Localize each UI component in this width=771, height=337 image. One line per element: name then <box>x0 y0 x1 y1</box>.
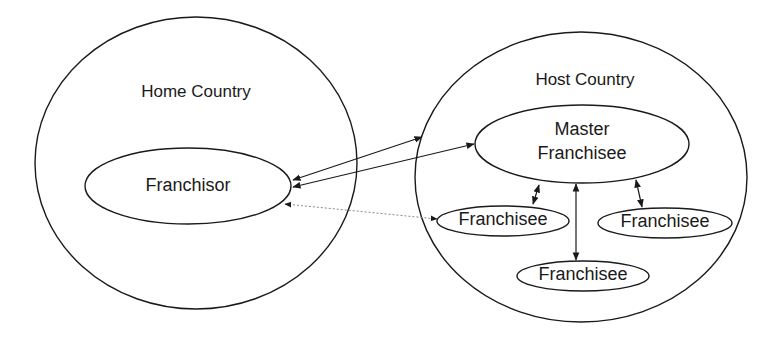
home-country-label: Home Country <box>126 83 266 101</box>
franchisee-left-label: Franchisee <box>443 210 563 229</box>
arrow-master-franchisee-right <box>636 180 642 207</box>
franchisee-bottom-label: Franchisee <box>523 265 643 284</box>
master-franchisee-label-line2: Franchisee <box>522 144 642 163</box>
diagram-canvas <box>0 0 771 337</box>
arrow-franchisor-host-country <box>293 137 422 180</box>
franchisor-label: Franchisor <box>128 176 248 195</box>
dotted-arrow-franchisor-franchisee <box>285 204 437 219</box>
master-franchisee-label-line1: Master <box>522 120 642 139</box>
franchisee-right-label: Franchisee <box>605 212 725 231</box>
home-country-circle <box>35 17 357 309</box>
arrow-master-franchisee-left <box>533 185 539 204</box>
host-country-label: Host Country <box>515 71 655 89</box>
